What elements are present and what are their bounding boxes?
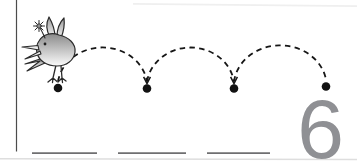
flower-center (37, 24, 41, 28)
hop-dot (230, 84, 239, 93)
bird-illustration (22, 17, 75, 83)
hop-arc-3 (234, 45, 326, 81)
bird-leg (48, 65, 57, 83)
hop-dots (54, 82, 331, 93)
hop-dot (54, 84, 63, 93)
hop-dot (143, 84, 152, 93)
page-edge-top (133, 4, 357, 6)
hop-arrowheads (144, 77, 238, 84)
bird-body (36, 34, 75, 66)
hop-arc-2 (147, 48, 234, 82)
worksheet-page: 6 (0, 0, 357, 162)
worksheet-canvas: 6 (0, 0, 357, 162)
numeral-6: 6 (297, 82, 344, 162)
bird-beak-upper (22, 46, 39, 51)
bird-eye (44, 43, 47, 46)
hop-arcs (58, 45, 326, 81)
